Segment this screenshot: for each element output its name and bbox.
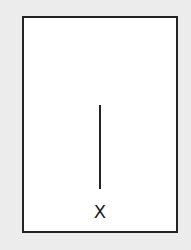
vertical-line <box>99 105 101 189</box>
axis-label-x: X <box>90 202 110 222</box>
